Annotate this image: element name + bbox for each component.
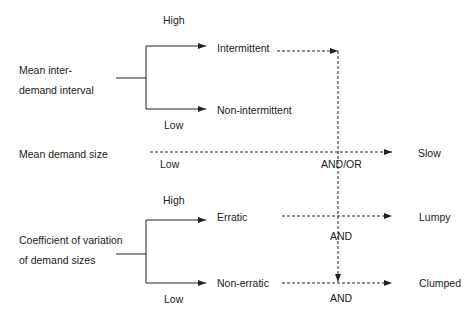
- outcome-lumpy: Lumpy: [419, 211, 451, 223]
- size-low-label: Low: [160, 158, 179, 170]
- outcome-slow: Slow: [418, 147, 441, 159]
- and-connector-lower-label: AND: [330, 292, 352, 304]
- and-connector-upper-label: AND: [330, 230, 352, 242]
- cv-factor-label-line2: of demand sizes: [19, 254, 95, 266]
- category-non-erratic: Non-erratic: [217, 277, 269, 289]
- size-factor-label: Mean demand size: [19, 148, 108, 160]
- interval-bracket: [116, 46, 206, 109]
- outcome-clumped: Clumped: [419, 277, 461, 289]
- interval-high-label: High: [163, 14, 185, 26]
- and-or-connector-label: AND/OR: [321, 158, 362, 170]
- category-intermittent: Intermittent: [217, 42, 270, 54]
- category-non-intermittent: Non-intermittent: [217, 104, 292, 116]
- cv-low-label: Low: [164, 293, 183, 305]
- interval-factor-label-line2: demand interval: [19, 84, 94, 96]
- cv-bracket: [116, 220, 206, 283]
- interval-factor-label-line1: Mean inter-: [19, 64, 72, 76]
- interval-low-label: Low: [164, 119, 183, 131]
- cv-factor-label-line1: Coefficient of variation: [19, 234, 123, 246]
- category-erratic: Erratic: [217, 211, 247, 223]
- cv-high-label: High: [163, 194, 185, 206]
